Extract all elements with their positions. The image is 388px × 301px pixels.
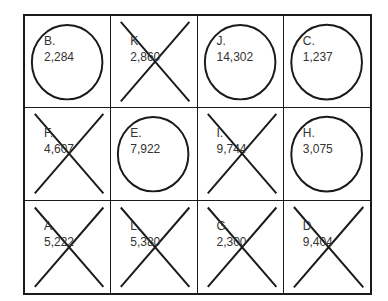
grid-cell[interactable]: K. 2,860 <box>111 16 197 108</box>
cell-value: 9,404 <box>303 235 333 249</box>
answer-grid: B. 2,284 K. 2,860 J. 14,302 C. 1,237 F. … <box>23 14 372 295</box>
cell-letter: L. <box>130 219 140 233</box>
cell-letter: J. <box>217 34 226 48</box>
cell-value: 4,607 <box>44 142 74 156</box>
cell-value: 2,284 <box>44 50 74 64</box>
grid-cell[interactable]: C. 1,237 <box>284 16 370 108</box>
cell-letter: C. <box>303 34 315 48</box>
cell-value: 5,380 <box>130 235 160 249</box>
cell-letter: K. <box>130 34 141 48</box>
grid-cell[interactable]: A. 5,222 <box>25 201 111 293</box>
cell-letter: D. <box>303 219 315 233</box>
cell-letter: G. <box>217 219 230 233</box>
cell-letter: I. <box>217 126 224 140</box>
cell-value: 14,302 <box>217 50 254 64</box>
cell-value: 2,300 <box>217 235 247 249</box>
grid-cell[interactable]: D. 9,404 <box>284 201 370 293</box>
cell-letter: F. <box>44 126 53 140</box>
cell-value: 3,075 <box>303 142 333 156</box>
grid-cell[interactable]: L. 5,380 <box>111 201 197 293</box>
grid-cell[interactable]: J. 14,302 <box>198 16 284 108</box>
cell-letter: E. <box>130 126 141 140</box>
cell-value: 1,237 <box>303 50 333 64</box>
grid-cell[interactable]: I. 9,744 <box>198 108 284 200</box>
cell-letter: H. <box>303 126 315 140</box>
cell-letter: B. <box>44 34 55 48</box>
cell-value: 2,860 <box>130 50 160 64</box>
cell-letter: A. <box>44 219 55 233</box>
cell-value: 7,922 <box>130 142 160 156</box>
grid-cell[interactable]: E. 7,922 <box>111 108 197 200</box>
cell-value: 9,744 <box>217 142 247 156</box>
cell-value: 5,222 <box>44 235 74 249</box>
grid-cell[interactable]: F. 4,607 <box>25 108 111 200</box>
grid-cell[interactable]: G. 2,300 <box>198 201 284 293</box>
grid-cell[interactable]: B. 2,284 <box>25 16 111 108</box>
grid-cell[interactable]: H. 3,075 <box>284 108 370 200</box>
